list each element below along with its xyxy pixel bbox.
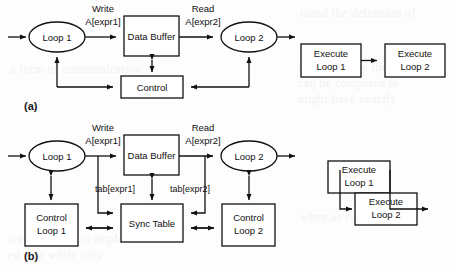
- panel-a-data-buffer-label: Data Buffer: [128, 31, 176, 42]
- panel-a-figure-label: (a): [24, 100, 37, 112]
- panel-b-write-expr-label: A[expr1]: [85, 135, 120, 146]
- panel-a-execute-loop1-line1: Execute: [314, 48, 348, 59]
- panel-b-read-expr-label: A[expr2]: [185, 135, 220, 146]
- panel-b-execute-loop1-line1: Execute: [342, 164, 376, 175]
- panel-a-loop1-label: Loop 1: [42, 32, 71, 43]
- panel-b-sync-table-label: Sync Table: [129, 218, 175, 229]
- panel-b-execute-loop1-line2: Loop 1: [344, 177, 373, 188]
- panel-b-loop1-label: Loop 1: [42, 151, 71, 162]
- panel-b-control-loop1-line2: Loop 1: [37, 225, 66, 236]
- figure-canvas: Loop 1 Data Buffer Loop 2 Control Write …: [0, 0, 457, 273]
- panel-a-execute-loop2-line2: Loop 2: [400, 61, 429, 72]
- panel-b-write-label: Write: [92, 122, 114, 133]
- panel-b-control-loop1-line1: Control: [36, 212, 67, 223]
- panel-b-data-buffer-label: Data Buffer: [128, 150, 176, 161]
- panel-a-read-expr-label: A[expr2]: [185, 16, 220, 27]
- panel-a-loop2-label: Loop 2: [234, 32, 263, 43]
- panel-a-write-expr-label: A[expr1]: [85, 16, 120, 27]
- panel-b-read-label: Read: [192, 122, 215, 133]
- panel-a-write-label: Write: [92, 3, 114, 14]
- panel-b-control-loop2-line2: Loop 2: [234, 225, 263, 236]
- panel-b-loop2-label: Loop 2: [234, 151, 263, 162]
- panel-b-control-loop2-line1: Control: [233, 212, 264, 223]
- panel-a-control-label: Control: [137, 82, 168, 93]
- panel-b-figure-label: (b): [24, 250, 38, 262]
- panel-a-execute-loop2-line1: Execute: [398, 48, 432, 59]
- panel-b-tab-expr2-label: tab[expr2]: [170, 184, 210, 194]
- panel-b-execute-loop2-line2: Loop 2: [371, 209, 400, 220]
- panel-b-tab-expr1-label: tab[expr1]: [95, 184, 135, 194]
- panel-a-read-label: Read: [192, 3, 215, 14]
- panel-a-execute-loop1-line2: Loop 1: [316, 61, 345, 72]
- panel-b-execute-loop2-line1: Execute: [369, 196, 403, 207]
